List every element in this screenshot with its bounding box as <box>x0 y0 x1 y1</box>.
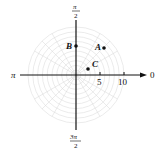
svg-text:B: B <box>65 41 72 51</box>
point-a: A <box>94 42 106 52</box>
svg-text:2: 2 <box>74 12 78 20</box>
tick-label-10: 10 <box>118 77 128 87</box>
tick-label-5: 5 <box>97 77 102 87</box>
polar-diagram: 5 10 0 π π 2 3π 2 A B C <box>0 0 161 156</box>
angle-label-pi: π <box>11 70 16 80</box>
arrowhead-icon <box>140 73 147 78</box>
angle-label-0: 0 <box>150 70 155 80</box>
angle-label-3pi-over-2: 3π 2 <box>69 133 81 150</box>
svg-text:3π: 3π <box>69 133 78 141</box>
svg-text:π: π <box>73 3 77 11</box>
angle-label-pi-over-2: π 2 <box>72 3 80 20</box>
point-c: C <box>86 59 99 71</box>
svg-text:C: C <box>92 59 99 69</box>
svg-text:A: A <box>94 42 101 52</box>
svg-text:2: 2 <box>74 142 78 150</box>
